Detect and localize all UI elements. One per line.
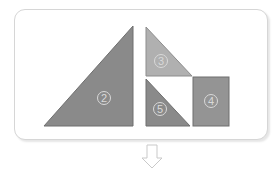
shape-triangle-2[interactable]: 2 bbox=[44, 26, 133, 126]
triangle-2-polygon[interactable] bbox=[44, 26, 133, 126]
triangle-3-polygon[interactable] bbox=[146, 27, 192, 76]
down-arrow-icon bbox=[142, 145, 162, 168]
tangram-figure: 2 3 5 4 bbox=[0, 0, 280, 173]
triangle-5-polygon[interactable] bbox=[146, 79, 190, 126]
shape-triangle-5[interactable]: 5 bbox=[146, 79, 190, 126]
square-4-rect[interactable] bbox=[193, 77, 229, 126]
shape-square-4[interactable]: 4 bbox=[193, 77, 229, 126]
figure-canvas: 2 3 5 4 bbox=[0, 0, 280, 173]
shape-triangle-3[interactable]: 3 bbox=[146, 27, 192, 76]
